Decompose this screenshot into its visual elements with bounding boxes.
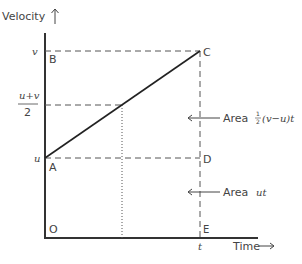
mid-tick-denominator: 2 <box>24 106 31 119</box>
point-E-label: E <box>203 224 209 235</box>
mid-tick-numerator: u+v <box>19 90 40 101</box>
triangle-area-half-den: 2 <box>256 118 260 125</box>
point-A-label: A <box>49 161 57 174</box>
u-tick-label: u <box>34 153 40 164</box>
point-C-label: C <box>203 46 211 59</box>
rectangle-area-prefix: Area <box>223 186 248 199</box>
velocity-time-graph: Velocity v u+v 2 u B C A D O E t Time Ar… <box>0 0 302 264</box>
rectangle-area-expr: ut <box>256 187 267 198</box>
point-O-label: O <box>49 223 58 236</box>
triangle-area-expr: (v−u)t <box>262 113 295 124</box>
triangle-area-prefix: Area <box>223 112 248 125</box>
triangle-area-half-num: 1 <box>256 110 260 117</box>
point-D-label: D <box>203 153 211 166</box>
v-tick-label: v <box>32 46 38 57</box>
point-B-label: B <box>49 53 57 66</box>
y-axis-label: Velocity <box>2 10 46 23</box>
x-axis-label: Time <box>232 240 260 253</box>
t-tick-label: t <box>198 241 203 252</box>
